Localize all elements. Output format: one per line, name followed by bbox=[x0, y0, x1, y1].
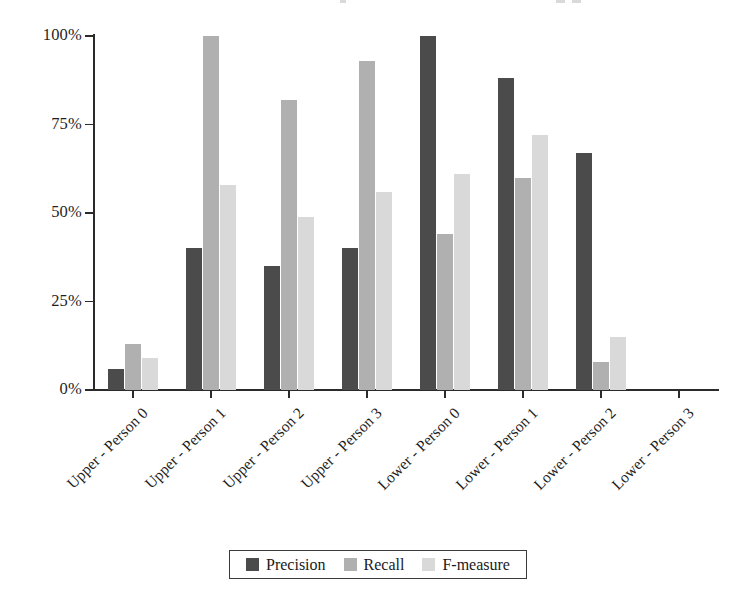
legend-swatch-icon bbox=[422, 558, 435, 571]
bar-fmeasure bbox=[220, 185, 237, 390]
legend-label: Precision bbox=[266, 556, 326, 574]
bar-fmeasure bbox=[142, 358, 159, 390]
chart-legend: PrecisionRecallF-measure bbox=[229, 550, 527, 579]
legend-swatch-icon bbox=[344, 558, 357, 571]
bar-fmeasure bbox=[298, 217, 315, 390]
y-axis-tick bbox=[85, 389, 93, 391]
bar-precision bbox=[108, 369, 125, 390]
y-axis-tick-label: 75% bbox=[10, 114, 82, 134]
y-axis-tick-label: 100% bbox=[10, 25, 82, 45]
y-axis-tick bbox=[85, 212, 93, 214]
x-axis-tick bbox=[444, 390, 446, 398]
plot-area bbox=[94, 36, 718, 390]
bar-recall bbox=[281, 100, 298, 390]
x-axis-tick bbox=[678, 390, 680, 398]
bar-recall bbox=[437, 234, 454, 390]
bar-precision bbox=[420, 36, 437, 390]
bar-precision bbox=[186, 248, 203, 390]
x-axis-tick bbox=[132, 390, 134, 398]
bar-fmeasure bbox=[376, 192, 393, 390]
y-axis-tick bbox=[85, 301, 93, 303]
x-axis-tick bbox=[366, 390, 368, 398]
bar-group bbox=[420, 36, 471, 390]
x-axis-tick bbox=[522, 390, 524, 398]
bar-group bbox=[498, 36, 549, 390]
bar-fmeasure bbox=[610, 337, 627, 390]
bar-precision bbox=[498, 78, 515, 390]
legend-label: Recall bbox=[364, 556, 405, 574]
scan-artifact bbox=[340, 0, 346, 3]
x-axis-tick bbox=[210, 390, 212, 398]
legend-entry: F-measure bbox=[413, 556, 519, 574]
bar-chart: 0%25%50%75%100% Upper - Person 0Upper - … bbox=[0, 0, 752, 608]
bar-group bbox=[264, 36, 315, 390]
legend-label: F-measure bbox=[442, 556, 510, 574]
y-axis-tick-label: 0% bbox=[10, 379, 82, 399]
bar-precision bbox=[264, 266, 281, 390]
bar-group bbox=[108, 36, 159, 390]
bar-group bbox=[654, 36, 705, 390]
bar-recall bbox=[593, 362, 610, 390]
bar-recall bbox=[125, 344, 142, 390]
y-axis-tick bbox=[85, 124, 93, 126]
y-axis-tick-label: 50% bbox=[10, 202, 82, 222]
x-axis-tick bbox=[600, 390, 602, 398]
legend-entry: Recall bbox=[335, 556, 414, 574]
legend-swatch-icon bbox=[246, 558, 259, 571]
y-axis-tick-label: 25% bbox=[10, 291, 82, 311]
bar-precision bbox=[342, 248, 359, 390]
bar-recall bbox=[359, 61, 376, 390]
bar-group bbox=[576, 36, 627, 390]
scan-artifact bbox=[556, 0, 565, 3]
y-axis-tick bbox=[85, 35, 93, 37]
bar-fmeasure bbox=[454, 174, 471, 390]
x-axis-tick bbox=[288, 390, 290, 398]
scan-artifact bbox=[572, 0, 581, 3]
legend-entry: Precision bbox=[237, 556, 335, 574]
bar-precision bbox=[576, 153, 593, 390]
bar-recall bbox=[203, 36, 220, 390]
bar-group bbox=[342, 36, 393, 390]
bar-group bbox=[186, 36, 237, 390]
bar-recall bbox=[515, 178, 532, 390]
bar-fmeasure bbox=[532, 135, 549, 390]
